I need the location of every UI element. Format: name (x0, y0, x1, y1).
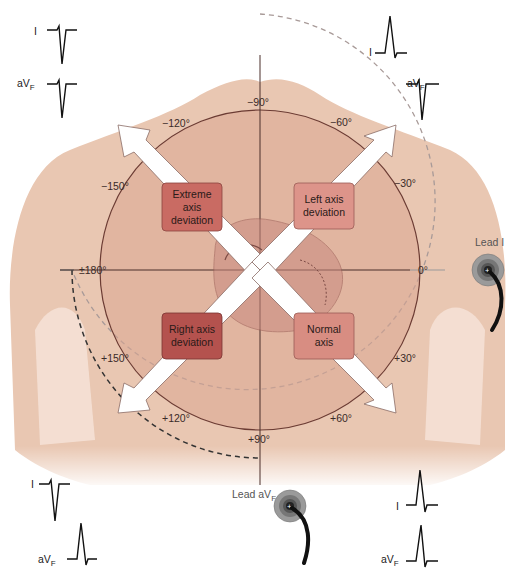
ecg-trace-negative (47, 26, 77, 64)
degree-label-plus90: +90° (248, 433, 270, 445)
quadrant-left: Left axis deviation (294, 183, 354, 229)
lead-i-label: Lead I (475, 236, 504, 248)
ecg-lead-label: I (34, 25, 37, 37)
ecg-lead-label: aVF (381, 553, 399, 568)
ecg-lead-label: aVF (38, 553, 56, 568)
ecg-lead-label: I (31, 478, 34, 490)
degree-label-minus30: −30° (394, 177, 416, 189)
ecg-trace-positive (375, 16, 407, 58)
ecg-panel-top-left: I aVF (17, 25, 77, 118)
quadrant-label-line: deviation (171, 336, 213, 348)
lead-avf-label: Lead aVF (232, 488, 276, 503)
quadrant-label-line: deviation (303, 206, 345, 218)
degree-label-plus30: +30° (394, 352, 416, 364)
ecg-trace-positive (406, 525, 438, 567)
quadrant-right: Right axis deviation (162, 313, 222, 359)
ecg-lead-label: aVF (17, 77, 35, 92)
degree-label-minus150: −150° (101, 180, 129, 192)
ecg-lead-label: I (396, 500, 399, 512)
degree-label-minus60: −60° (330, 116, 352, 128)
degree-label-plus150: +150° (101, 352, 129, 364)
diagram-canvas: Extreme axis deviation Left axis deviati… (0, 0, 521, 581)
quadrant-label-line: Right axis (169, 323, 215, 335)
quadrant-label-line: deviation (171, 214, 213, 226)
quadrant-normal: Normal axis (294, 313, 354, 359)
ecg-trace-positive (67, 523, 97, 565)
ecg-panel-bottom-left: I aVF (31, 478, 97, 568)
electrode-lead-avf: Lead aVF + (232, 488, 308, 563)
degree-label-minus120: −120° (162, 117, 190, 129)
quadrant-label-line: Left axis (304, 193, 343, 205)
quadrant-label-line: Extreme (172, 188, 211, 200)
axis-diagram: Extreme axis deviation Left axis deviati… (0, 0, 521, 581)
quadrant-label-line: axis (315, 336, 334, 348)
degree-label-180: ±180° (79, 264, 106, 276)
ecg-lead-label: I (369, 46, 372, 58)
degree-label-plus60: +60° (330, 412, 352, 424)
degree-label-0: 0° (418, 264, 428, 276)
quadrant-extreme: Extreme axis deviation (162, 183, 222, 231)
quadrant-label-line: axis (183, 201, 202, 213)
degree-label-plus120: +120° (162, 412, 190, 424)
ecg-trace-negative (47, 80, 77, 118)
quadrant-label-line: Normal (307, 323, 341, 335)
ecg-panel-top-right: I aVF (369, 16, 439, 120)
degree-label-minus90: −90° (247, 96, 269, 108)
